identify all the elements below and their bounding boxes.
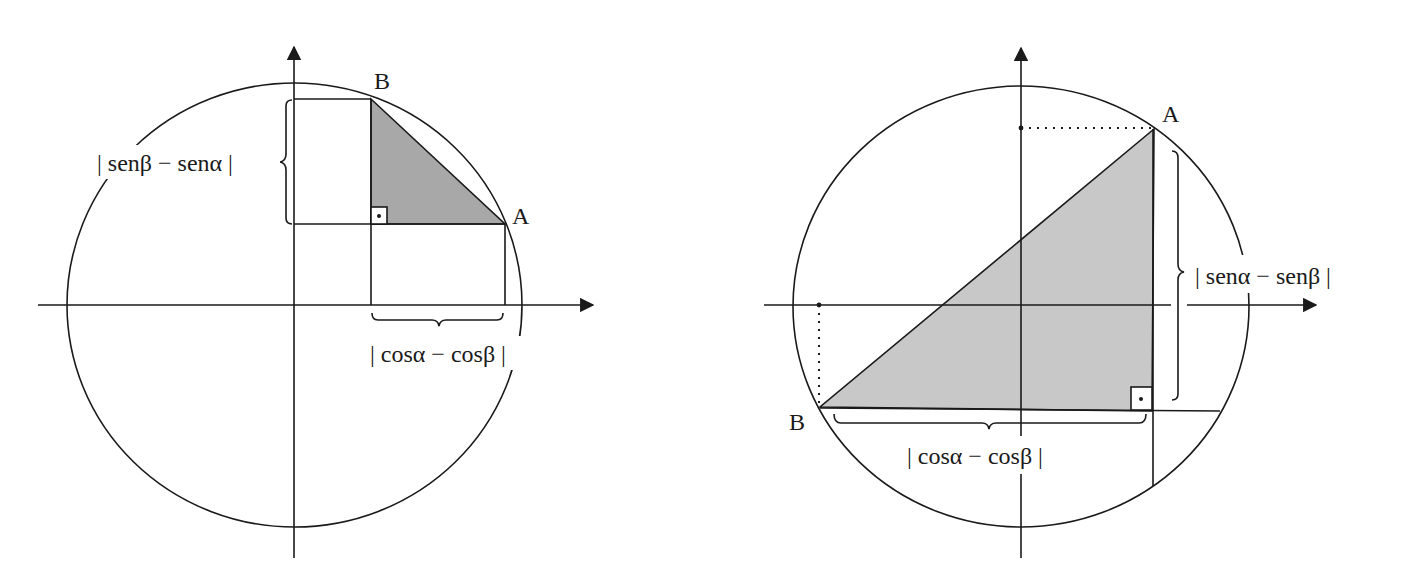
left-horizontal-length-label: | cosα − cosβ |	[370, 341, 506, 367]
right-horizontal-length-label: | cosα − cosβ |	[907, 443, 1043, 469]
left-right-angle-dot	[377, 214, 381, 218]
right-figure: A B | senα − senβ | | cosα − cosβ |	[764, 48, 1378, 558]
left-vertical-length-label: | senβ − senα |	[97, 150, 233, 176]
right-horizontal-brace	[834, 414, 1146, 429]
right-axis-gap	[1171, 298, 1187, 312]
left-vertical-brace	[280, 100, 292, 224]
right-b-projection-dot	[817, 303, 822, 308]
left-figure: B A | senβ − senα | | cosα − cosβ |	[38, 47, 593, 558]
left-point-a-label: A	[512, 203, 530, 229]
right-shaded-triangle	[820, 129, 1154, 411]
right-point-a-label: A	[1162, 101, 1180, 127]
left-shaded-triangle	[371, 99, 505, 224]
right-point-b-label: B	[789, 409, 805, 435]
right-right-angle-dot	[1139, 397, 1143, 401]
left-horizontal-brace	[372, 313, 503, 326]
left-point-b-label: B	[374, 68, 390, 94]
right-vertical-length-label: | senα − senβ |	[1195, 263, 1331, 289]
diagram-canvas: B A | senβ − senα | | cosα − cosβ |	[0, 0, 1404, 578]
right-a-projection-dot	[1019, 126, 1024, 131]
right-vertical-brace	[1172, 151, 1184, 400]
